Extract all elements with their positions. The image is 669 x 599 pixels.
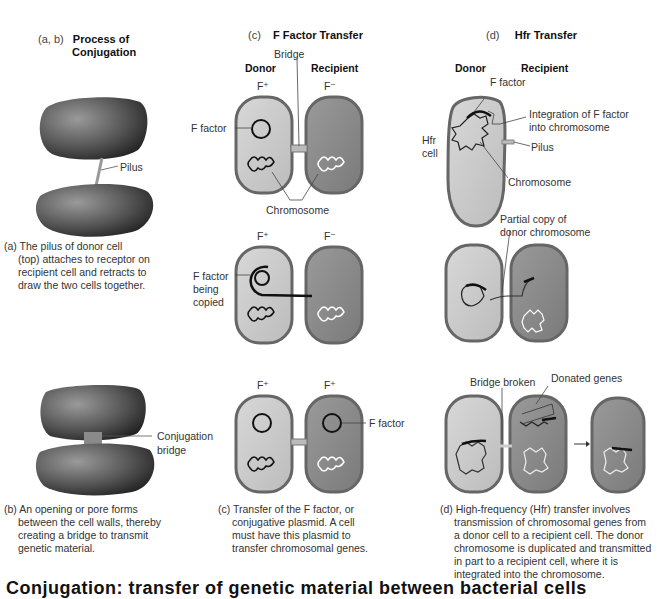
f-factor-copied-label-3: copied [193, 296, 224, 308]
caption-a-line: draw the two cells together. [4, 279, 204, 292]
bridge-label: Bridge [274, 48, 304, 60]
partial-copy-label-2: donor chromosome [500, 226, 590, 238]
caption-b-line: creating a bridge to transmit [4, 529, 214, 542]
donor-type-c1: F⁺ [257, 80, 269, 92]
bridge-broken-label: Bridge broken [470, 376, 535, 388]
panel-c-row1-art [235, 58, 362, 200]
pilus-label-d: Pilus [531, 141, 554, 153]
recipient-label-c: Recipient [311, 62, 358, 74]
bottom-heading-cut-off: Conjugation: transfer of genetic materia… [6, 578, 587, 599]
caption-d-line: chromosome is duplicated and transmitted [440, 542, 669, 555]
caption-a-line: (a) The pilus of donor cell [4, 240, 204, 253]
caption-a: (a) The pilus of donor cell (top) attach… [4, 240, 204, 292]
hfr-cell-label-1: Hfr [422, 134, 436, 146]
recipient-type-c2: F⁻ [324, 230, 336, 242]
recipient-type-c1: F⁻ [324, 80, 336, 92]
integration-label-2: into chromosome [529, 121, 610, 133]
panel-c-row3-art [236, 396, 366, 492]
hfr-cell-label-2: cell [422, 147, 438, 159]
chromosome-label-d: Chromosome [508, 176, 571, 188]
panel-d-row1-art [448, 97, 530, 226]
panel-b-art [36, 385, 154, 495]
donor-label-d: Donor [455, 62, 486, 74]
pilus-label: Pilus [120, 161, 143, 173]
caption-d-line: in part to a recipient cell, where it is [440, 555, 669, 568]
caption-d: (d) High-frequency (Hfr) transfer involv… [440, 503, 669, 581]
chromosome-label-c1: Chromosome [266, 204, 329, 216]
f-factor-copied-label-2: being [193, 283, 219, 295]
caption-c-line: (c) Transfer of the F factor, or [218, 503, 438, 516]
f-factor-label-c3: F factor [369, 417, 405, 429]
caption-c-line: must have this plasmid to [218, 529, 438, 542]
donor-type-c2: F⁺ [257, 230, 269, 242]
caption-d-line: transmission of chromosomal genes from [440, 516, 669, 529]
caption-d-line: (d) High-frequency (Hfr) transfer involv… [440, 503, 669, 516]
recipient-type-c3: F⁺ [324, 379, 336, 391]
panel-c-row2-art [235, 247, 362, 343]
integration-label-1: Integration of F factor [529, 108, 629, 120]
header-d: (d) Hfr Transfer [486, 28, 577, 42]
f-factor-copied-label-1: F factor [193, 270, 229, 282]
panel-d-row2-art [446, 230, 567, 341]
donor-label-c: Donor [245, 62, 276, 74]
header-c-title: F Factor Transfer [273, 29, 363, 41]
partial-copy-label-1: Partial copy of [500, 213, 567, 225]
caption-d-line: a donor cell to a recipient cell. The do… [440, 529, 669, 542]
caption-b-line: between the cell walls, thereby [4, 516, 214, 529]
header-d-prefix: (d) [486, 29, 499, 41]
recipient-label-d: Recipient [521, 62, 568, 74]
header-c-prefix: (c) [248, 29, 261, 41]
caption-b-line: genetic material. [4, 542, 214, 555]
conjugation-bridge-label-1: Conjugation [157, 430, 213, 442]
caption-c: (c) Transfer of the F factor, or conjuga… [218, 503, 438, 555]
caption-a-line: (top) attaches to receptor on [4, 253, 204, 266]
caption-c-line: conjugative plasmid. A cell [218, 516, 438, 529]
caption-c-line: transfer chromosomal genes. [218, 542, 438, 555]
header-ab-title-2: Conjugation [72, 45, 136, 59]
header-ab-prefix: (a, b) [38, 33, 64, 45]
conjugation-bridge-label-2: bridge [157, 444, 186, 456]
header-c: (c) F Factor Transfer [248, 28, 363, 42]
f-factor-label-d1: F factor [490, 76, 526, 88]
header-ab: (a, b) Process of [38, 32, 129, 46]
caption-b: (b) An opening or pore forms between the… [4, 503, 214, 555]
f-factor-label-c1: F factor [191, 122, 227, 134]
panel-d-row3-art [446, 386, 644, 492]
caption-b-line: (b) An opening or pore forms [4, 503, 214, 516]
donor-type-c3: F⁺ [257, 379, 269, 391]
donated-genes-label: Donated genes [551, 372, 622, 384]
caption-a-line: recipient cell and retracts to [4, 266, 204, 279]
header-d-title: Hfr Transfer [515, 29, 577, 41]
header-ab-title-1: Process of [73, 33, 129, 45]
